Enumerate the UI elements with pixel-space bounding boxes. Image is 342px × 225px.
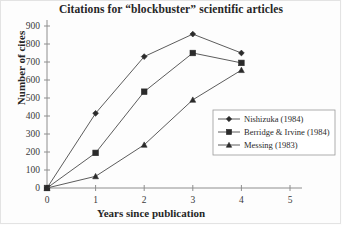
y-tick-label: 200 [26, 147, 41, 157]
x-tick-label: 4 [239, 195, 244, 205]
data-point-marker [190, 31, 196, 37]
y-tick-label: 600 [26, 75, 41, 85]
y-tick-label: 300 [26, 129, 41, 139]
legend-label: Nishizuka (1984) [244, 114, 303, 124]
y-tick-label: 700 [26, 57, 41, 67]
x-tick-label: 5 [288, 195, 293, 205]
y-tick-label: 100 [26, 165, 41, 175]
data-point-marker [93, 173, 99, 178]
citations-line-chart: Citations for “blockbuster” scientific a… [0, 0, 342, 225]
data-point-marker [239, 60, 245, 66]
y-tick-label: 400 [26, 111, 41, 121]
x-tick-label: 2 [142, 195, 147, 205]
legend-label: Messing (1983) [244, 140, 298, 150]
data-point-marker [239, 50, 245, 56]
plot-area: 0100200300400500600700800900 012345 Nish… [0, 0, 342, 225]
data-point-marker [190, 97, 196, 102]
data-point-marker [226, 129, 231, 134]
x-tick-label: 3 [190, 195, 195, 205]
x-tick-label: 1 [93, 195, 98, 205]
data-point-marker [93, 150, 99, 156]
y-axis-ticks: 0100200300400500600700800900 [26, 21, 50, 193]
series-polyline [47, 53, 241, 188]
x-tick-label: 0 [45, 195, 50, 205]
legend-label: Berridge & Irvine (1984) [244, 127, 330, 137]
chart-legend: Nishizuka (1984)Berridge & Irvine (1984)… [213, 110, 335, 155]
data-point-marker [141, 89, 147, 95]
data-point-marker [239, 67, 245, 72]
y-tick-label: 900 [26, 21, 41, 31]
y-tick-label: 800 [26, 39, 41, 49]
series-polyline [47, 70, 241, 188]
y-tick-label: 500 [26, 93, 41, 103]
data-point-marker [190, 50, 196, 56]
y-tick-label: 0 [35, 183, 40, 193]
